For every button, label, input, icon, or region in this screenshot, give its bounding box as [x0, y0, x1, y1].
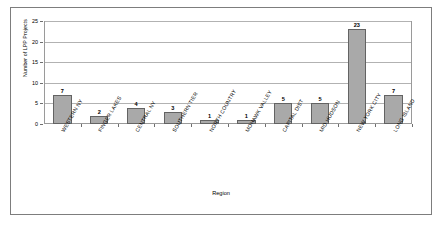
bar-value-label: 4 [124, 101, 148, 107]
x-tick-mark [154, 124, 155, 127]
x-tick-mark [412, 124, 413, 127]
bar-value-label: 7 [50, 88, 74, 94]
y-tick-label: 5 [24, 100, 38, 106]
y-tick-mark [40, 21, 43, 22]
x-tick-mark [228, 124, 229, 127]
bar-value-label: 23 [345, 22, 369, 28]
y-tick-mark [40, 103, 43, 104]
x-tick-mark [118, 124, 119, 127]
y-tick-mark [40, 42, 43, 43]
bar-value-label: 5 [308, 96, 332, 102]
bar-chart: Number of LPP Projects 0510152025 724311… [0, 0, 442, 225]
x-tick-mark [375, 124, 376, 127]
bar [348, 29, 366, 124]
bar-value-label: 7 [382, 88, 406, 94]
y-tick-label: 15 [24, 59, 38, 65]
y-tick-label: 25 [24, 18, 38, 24]
chart-screenshot: Number of LPP Projects 0510152025 724311… [0, 0, 442, 225]
y-tick-mark [40, 62, 43, 63]
x-tick-mark [338, 124, 339, 127]
y-tick-label: 20 [24, 39, 38, 45]
y-tick-label: 10 [24, 80, 38, 86]
x-tick-mark [191, 124, 192, 127]
y-tick-mark [40, 83, 43, 84]
y-tick-mark [40, 124, 43, 125]
x-axis-title: Region [0, 190, 442, 196]
bar-value-label: 5 [271, 96, 295, 102]
y-axis-title: Number of LPP Projects [22, 0, 28, 103]
x-tick-mark [302, 124, 303, 127]
y-tick-label: 0 [24, 121, 38, 127]
x-tick-mark [265, 124, 266, 127]
x-tick-mark [81, 124, 82, 127]
